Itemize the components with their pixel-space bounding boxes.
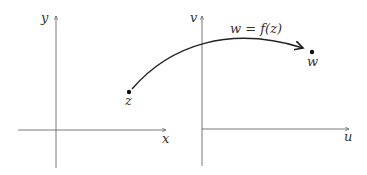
complex-mapping-diagram: x y z u v w w = f(z)	[0, 0, 367, 175]
z-plane: x y z	[18, 10, 170, 168]
mapping-arrow	[132, 38, 303, 89]
v-axis-label: v	[190, 10, 198, 25]
point-z-label: z	[124, 93, 132, 108]
y-axis-label: y	[40, 10, 49, 25]
point-w-label: w	[307, 54, 318, 69]
x-axis-label: x	[162, 131, 170, 146]
u-axis-label: u	[344, 129, 352, 144]
mapping-label: w = f(z)	[230, 21, 282, 36]
